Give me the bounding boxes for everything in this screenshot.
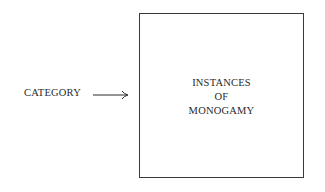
box-label-line-2: OF — [139, 90, 304, 104]
box-label-line-3: MONOGAMY — [139, 104, 304, 118]
box-label-line-1: INSTANCES — [139, 76, 304, 90]
category-label: CATEGORY — [24, 87, 81, 99]
right-arrow-icon — [93, 89, 129, 101]
box-label: INSTANCES OF MONOGAMY — [139, 76, 304, 118]
